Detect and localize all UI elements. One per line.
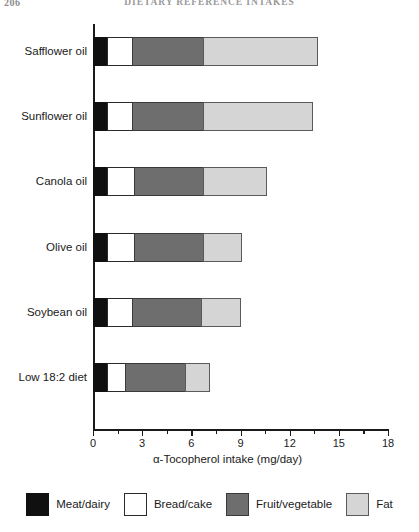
stacked-bar-chart: 0369121518 Safflower oilSunflower oilCan… xyxy=(0,0,419,480)
x-tick-minor xyxy=(216,430,217,434)
bar-segment-fruit-vegetable xyxy=(132,298,202,327)
legend-label: Bread/cake xyxy=(154,498,212,510)
x-tick-minor xyxy=(167,430,168,434)
bar-segment-fruit-vegetable xyxy=(132,37,204,66)
bar-segment-meat-dairy xyxy=(93,37,108,66)
bar-segment-meat-dairy xyxy=(93,167,108,196)
bar-segment-fat xyxy=(201,298,240,327)
x-tick-minor xyxy=(314,430,315,434)
category-label: Low 18:2 diet xyxy=(0,363,87,392)
category-label: Olive oil xyxy=(0,233,87,262)
x-tick-label: 9 xyxy=(237,437,243,449)
bar-segment-bread-cake xyxy=(107,37,133,66)
stacked-bar xyxy=(93,233,242,262)
x-tick-label: 15 xyxy=(333,437,345,449)
x-tick-minor xyxy=(265,430,266,434)
legend-item: Fat xyxy=(346,493,393,516)
category-label: Sunflower oil xyxy=(0,102,87,131)
bar-segment-bread-cake xyxy=(107,298,133,327)
x-tick-label: 6 xyxy=(188,437,194,449)
bar-segment-meat-dairy xyxy=(93,298,108,327)
legend-label: Fruit/vegetable xyxy=(256,498,332,510)
bar-row xyxy=(93,233,245,262)
bar-segment-fat xyxy=(203,37,318,66)
bar-segment-fruit-vegetable xyxy=(134,167,204,196)
legend-swatch-fruit-vegetable xyxy=(226,493,249,516)
bar-segment-fat xyxy=(203,233,242,262)
stacked-bar xyxy=(93,167,267,196)
legend-label: Fat xyxy=(376,498,393,510)
legend-item: Fruit/vegetable xyxy=(226,493,332,516)
legend-swatch-meat-dairy xyxy=(26,493,49,516)
bar-segment-fat xyxy=(185,363,210,392)
category-label: Soybean oil xyxy=(0,298,87,327)
bar-segment-fat xyxy=(203,102,313,131)
bar-segment-meat-dairy xyxy=(93,233,108,262)
bar-segment-meat-dairy xyxy=(93,102,108,131)
stacked-bar xyxy=(93,363,210,392)
bar-row xyxy=(93,37,321,66)
legend-swatch-fat xyxy=(346,493,369,516)
bar-row xyxy=(93,298,244,327)
category-label: Safflower oil xyxy=(0,37,87,66)
x-tick-minor xyxy=(363,430,364,434)
bar-row xyxy=(93,363,213,392)
stacked-bar xyxy=(93,298,241,327)
stacked-bar xyxy=(93,37,318,66)
x-tick-label: 18 xyxy=(382,437,394,449)
bar-row xyxy=(93,167,270,196)
x-axis-title-text: α-Tocopherol intake (mg/day) xyxy=(153,453,302,465)
chart-legend: Meat/dairyBread/cakeFruit/vegetableFat xyxy=(0,487,419,521)
x-tick-major xyxy=(290,430,291,436)
category-label: Canola oil xyxy=(0,167,87,196)
x-tick-major xyxy=(339,430,340,436)
bar-segment-fruit-vegetable xyxy=(132,102,204,131)
x-tick-major xyxy=(388,430,389,436)
legend-item: Meat/dairy xyxy=(26,493,110,516)
bar-segment-meat-dairy xyxy=(93,363,108,392)
x-tick-label: 0 xyxy=(90,437,96,449)
bar-row xyxy=(93,102,316,131)
x-tick-major xyxy=(241,430,242,436)
x-tick-label: 12 xyxy=(284,437,296,449)
bar-segment-bread-cake xyxy=(107,363,127,392)
x-tick-label: 3 xyxy=(139,437,145,449)
bar-segment-bread-cake xyxy=(107,102,133,131)
bar-segment-bread-cake xyxy=(107,233,135,262)
legend-label: Meat/dairy xyxy=(56,498,110,510)
x-tick-major xyxy=(142,430,143,436)
bar-segment-fat xyxy=(203,167,267,196)
x-axis-title: α-Tocopherol intake (mg/day) xyxy=(0,453,419,465)
bar-segment-fruit-vegetable xyxy=(134,233,204,262)
stacked-bar xyxy=(93,102,313,131)
bar-segment-bread-cake xyxy=(107,167,135,196)
x-tick-minor xyxy=(118,430,119,434)
x-tick-major xyxy=(93,430,94,436)
bar-segment-fruit-vegetable xyxy=(125,363,186,392)
legend-swatch-bread-cake xyxy=(124,493,147,516)
x-tick-major xyxy=(191,430,192,436)
legend-item: Bread/cake xyxy=(124,493,212,516)
